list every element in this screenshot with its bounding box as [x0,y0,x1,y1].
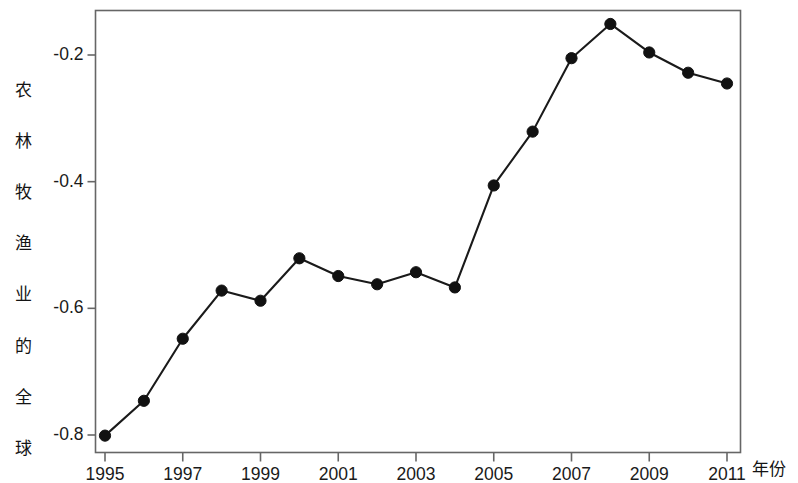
x-axis-tick-label: 1995 [77,464,133,483]
data-point-marker [177,333,188,344]
y-axis-tick-label: -0.2 [30,44,84,65]
data-point-marker [99,430,110,441]
data-point-marker [449,282,460,293]
plot-frame [96,11,741,453]
data-point-marker [410,267,421,278]
y-axis-ticks [88,55,96,435]
x-axis-tick-label: 2001 [310,464,366,483]
data-point-marker [644,47,655,58]
x-axis-tick-label: 2007 [544,464,600,483]
y-axis-title-char: 农 [8,78,38,104]
plot-area [0,0,798,483]
y-axis-title: 农 林 牧 渔 业 的 全 球 价 值 链 分 工 地 位 [8,52,38,483]
x-axis-tick-label: 2011 [699,464,755,483]
y-axis-tick-label: -0.6 [30,297,84,318]
data-point-marker [294,253,305,264]
x-axis-title: 年份 [752,455,786,480]
x-axis-ticks [105,453,727,462]
data-point-marker [683,67,694,78]
y-axis-tick-label: -0.4 [30,171,84,192]
x-axis-tick-label: 2003 [388,464,444,483]
data-point-marker [216,285,227,296]
y-axis-title-char: 渔 [8,231,38,257]
x-axis-tick-label: 2009 [621,464,677,483]
x-axis-tick-label: 1999 [233,464,289,483]
y-axis-title-char: 全 [8,385,38,411]
data-point-marker [255,295,266,306]
y-axis-title-char: 的 [8,334,38,360]
y-axis-title-char: 林 [8,129,38,155]
data-point-marker [605,18,616,29]
x-axis-tick-label: 2005 [466,464,522,483]
data-point-marker [138,395,149,406]
chart-figure: 农 林 牧 渔 业 的 全 球 价 值 链 分 工 地 位 年份 -0.2-0.… [0,0,798,483]
data-point-marker [488,180,499,191]
data-point-marker [721,78,732,89]
data-point-marker [566,53,577,64]
data-point-marker [333,270,344,281]
y-axis-tick-label: -0.8 [30,424,84,445]
data-point-marker [372,279,383,290]
data-point-marker [527,126,538,137]
x-axis-tick-label: 1997 [155,464,211,483]
